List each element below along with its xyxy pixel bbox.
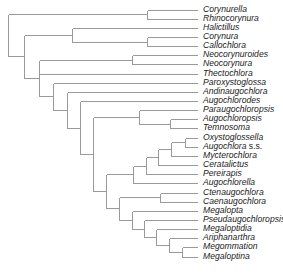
taxon-label: Megaloptina	[203, 252, 250, 261]
taxon-label: Augochlorella	[203, 178, 255, 187]
